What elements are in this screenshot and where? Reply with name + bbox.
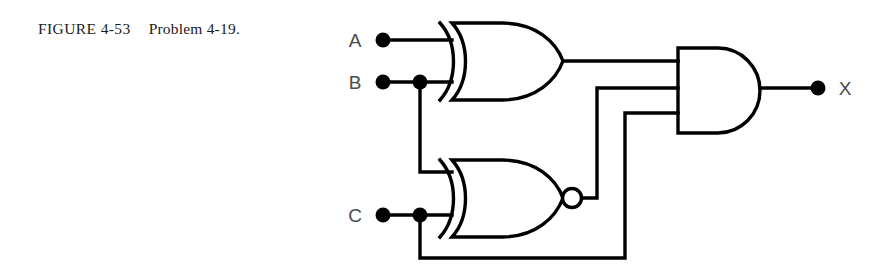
wire-b-branch-to-xnor [420, 82, 452, 172]
terminal-dot-a [376, 33, 391, 48]
figure-page: FIGURE 4-53Problem 4-19. [0, 0, 888, 277]
terminal-dot-c [376, 208, 391, 223]
input-label-c: C [348, 205, 362, 226]
logic-circuit-diagram: A B C X [0, 0, 888, 277]
gate-xnor-inversion-bubble [563, 189, 582, 208]
input-label-a: A [349, 30, 362, 51]
gate-and-body [678, 48, 760, 133]
junction-dot-b [413, 75, 428, 90]
wire-xnor-out-to-and [582, 88, 678, 198]
junction-dot-c [413, 208, 428, 223]
terminal-dot-x [811, 81, 826, 96]
terminal-dot-b [376, 75, 391, 90]
output-label-x: X [839, 78, 852, 99]
input-label-b: B [349, 72, 362, 93]
gate-xor-input-arc [440, 23, 454, 100]
gate-xor-body [452, 23, 563, 100]
gate-xnor-body [452, 160, 563, 237]
